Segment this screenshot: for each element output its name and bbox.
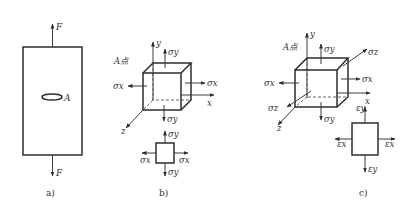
elem-eps-y-bottom-label-c: εy (368, 164, 378, 174)
panel-a: F F A a) (23, 22, 82, 198)
sigma-z-front-arrow-c (287, 91, 311, 107)
elem-sigma-x-left-label-b: σx (140, 155, 151, 165)
caption-a: a) (46, 188, 55, 198)
bar-specimen (23, 47, 82, 155)
sigma-x-left-label-c: σx (264, 78, 275, 88)
elem-eps-x-left-label-c: εx (337, 139, 347, 149)
sigma-y-top-label-c: σy (324, 44, 335, 54)
elem-eps-y-top-label-c: εy (356, 103, 366, 113)
panel-b: A点 y x z σy σy σx σx σy σy σx σx b) (113, 38, 218, 198)
cube-top-right-b (143, 63, 191, 110)
point-a-label: A (63, 93, 71, 103)
cube-top-right-c (295, 58, 348, 107)
plane-element-b (156, 143, 174, 163)
point-label-c: A点 (282, 42, 299, 52)
sigma-x-right-label-c: σx (362, 74, 373, 84)
x-axis-label-b: x (207, 98, 212, 108)
force-top-label: F (55, 22, 63, 32)
sigma-z-front-label-c: σz (268, 103, 279, 113)
stress-state-figure: F F A a) A点 y x z σy σy σx σx σy σy (0, 0, 419, 200)
cube-hidden-edges-c (295, 58, 348, 107)
elem-eps-x-right-label-c: εx (385, 139, 395, 149)
sigma-x-left-label-b: σx (113, 81, 124, 91)
sigma-y-top-label-b: σy (168, 47, 179, 57)
point-a-marker (42, 94, 62, 100)
caption-b: b) (159, 188, 168, 198)
sigma-x-right-label-b: σx (207, 78, 218, 88)
z-axis-label-c: z (276, 123, 282, 133)
force-bottom-label: F (55, 168, 63, 178)
elem-sigma-y-bottom-label-b: σy (168, 167, 179, 177)
plane-element-c (352, 123, 378, 155)
elem-sigma-y-top-label-b: σy (168, 129, 179, 139)
caption-c: c) (359, 188, 368, 198)
sigma-y-bottom-label-b: σy (167, 114, 178, 124)
sigma-z-back-label-c: σz (368, 47, 379, 57)
panel-c: A点 y x z σy σy σx σx σz σz εy εy εx εx (264, 29, 395, 198)
z-axis-label-b: z (120, 126, 126, 136)
x-axis-label-c: x (365, 96, 370, 106)
y-axis-label-c: y (309, 29, 315, 39)
z-axis-b (126, 110, 143, 128)
sigma-y-bottom-label-c: σy (324, 114, 335, 124)
point-label-b: A点 (113, 56, 130, 66)
y-axis-label-b: y (155, 38, 161, 48)
elem-sigma-x-right-label-b: σx (179, 155, 190, 165)
